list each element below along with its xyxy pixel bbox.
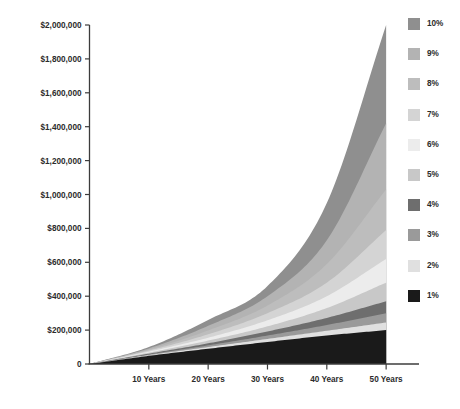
legend-item-10pct[interactable]: 10% bbox=[408, 18, 443, 30]
compound-interest-area-chart: $2,000,000$1,800,000$1,600,000$1,400,000… bbox=[0, 0, 460, 409]
y-tick-label: $1,600,000 bbox=[41, 89, 82, 98]
legend-swatch bbox=[408, 260, 420, 272]
legend-swatch bbox=[408, 18, 420, 30]
legend-label: 8% bbox=[427, 78, 439, 90]
legend-swatch bbox=[408, 48, 420, 60]
legend-swatch bbox=[408, 139, 420, 151]
legend-item-5pct[interactable]: 5% bbox=[408, 169, 439, 181]
y-tick-label: $1,000,000 bbox=[41, 191, 82, 200]
legend-label: 9% bbox=[427, 48, 439, 60]
y-tick-label: $800,000 bbox=[47, 224, 82, 233]
y-tick-label: $1,400,000 bbox=[41, 123, 82, 132]
x-tick-label: 10 Years bbox=[132, 375, 166, 384]
x-tick-label: 30 Years bbox=[251, 375, 285, 384]
legend-item-2pct[interactable]: 2% bbox=[408, 260, 439, 272]
legend-item-9pct[interactable]: 9% bbox=[408, 48, 439, 60]
x-tick-label: 40 Years bbox=[310, 375, 344, 384]
x-axis-tick-labels: 10 Years20 Years30 Years40 Years50 Years bbox=[132, 375, 403, 384]
legend-swatch bbox=[408, 199, 420, 211]
legend-item-7pct[interactable]: 7% bbox=[408, 109, 439, 121]
x-tick-label: 20 Years bbox=[192, 375, 226, 384]
legend-swatch bbox=[408, 229, 420, 241]
legend-item-1pct[interactable]: 1% bbox=[408, 290, 439, 302]
area-bands-group bbox=[90, 25, 387, 364]
legend-label: 5% bbox=[427, 169, 439, 181]
legend-swatch bbox=[408, 169, 420, 181]
legend-label: 2% bbox=[427, 260, 439, 272]
legend-label: 1% bbox=[427, 290, 439, 302]
y-tick-label: $200,000 bbox=[47, 326, 82, 335]
y-tick-label: $1,200,000 bbox=[41, 157, 82, 166]
y-tick-label: $2,000,000 bbox=[41, 21, 82, 30]
legend-label: 10% bbox=[427, 18, 443, 30]
y-tick-label: $600,000 bbox=[47, 258, 82, 267]
legend-label: 3% bbox=[427, 229, 439, 241]
legend-swatch bbox=[408, 78, 420, 90]
y-tick-label: $400,000 bbox=[47, 292, 82, 301]
y-tick-label: $1,800,000 bbox=[41, 55, 82, 64]
legend-swatch bbox=[408, 290, 420, 302]
legend-item-3pct[interactable]: 3% bbox=[408, 229, 439, 241]
legend-label: 7% bbox=[427, 109, 439, 121]
x-tick-label: 50 Years bbox=[370, 375, 404, 384]
legend-label: 4% bbox=[427, 199, 439, 211]
y-tick-label: 0 bbox=[77, 360, 82, 369]
chart-legend: 10%9%8%7%6%5%4%3%2%1% bbox=[408, 18, 460, 303]
legend-item-6pct[interactable]: 6% bbox=[408, 139, 439, 151]
legend-label: 6% bbox=[427, 139, 439, 151]
legend-item-4pct[interactable]: 4% bbox=[408, 199, 439, 211]
y-axis-tick-labels: $2,000,000$1,800,000$1,600,000$1,400,000… bbox=[41, 21, 82, 369]
legend-swatch bbox=[408, 109, 420, 121]
legend-item-8pct[interactable]: 8% bbox=[408, 78, 439, 90]
chart-plot-area: $2,000,000$1,800,000$1,600,000$1,400,000… bbox=[0, 0, 460, 409]
